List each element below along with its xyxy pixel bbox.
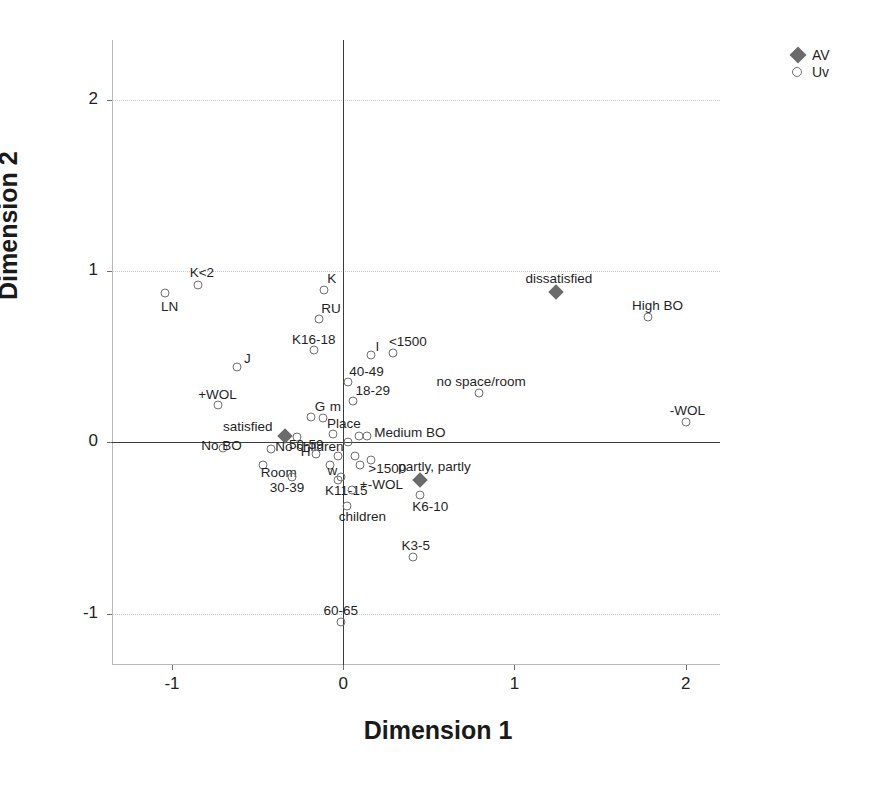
data-point-diamond [413, 472, 429, 488]
legend-circle-icon [792, 67, 810, 77]
data-point-circle [344, 438, 353, 447]
data-point-circle [363, 431, 372, 440]
data-point-circle [161, 289, 170, 298]
data-point-circle [311, 450, 320, 459]
data-point-circle [681, 417, 690, 426]
data-point-label: 60-65 [323, 604, 358, 618]
data-point-circle [320, 286, 329, 295]
legend-marker-shape [790, 46, 807, 63]
legend-diamond-icon [792, 49, 810, 61]
data-point-label: >1500 [368, 462, 406, 476]
data-point-circle [366, 455, 375, 464]
data-point-label: J [244, 352, 251, 366]
data-point-circle [233, 363, 242, 372]
data-point-label: K16-18 [292, 333, 336, 347]
y-tick-mark-0 [107, 442, 112, 443]
data-point-diamond [548, 284, 564, 300]
y-tick-mark-1 [107, 271, 112, 272]
y-tick-mark-2 [107, 100, 112, 101]
data-point-label: K6-10 [412, 500, 448, 514]
data-point-circle [306, 412, 315, 421]
data-point-label: H [301, 445, 311, 459]
x-tick-label-0: 0 [338, 674, 347, 694]
data-point-label: <1500 [389, 335, 427, 349]
data-point-circle [347, 486, 356, 495]
data-point-circle [337, 472, 346, 481]
data-point-circle [409, 553, 418, 562]
data-point-circle [193, 280, 202, 289]
data-point-label: K [327, 272, 336, 286]
plot-area: 210-1-1012 satisfieddissatisfiedpartly, … [112, 40, 720, 665]
data-point-label: G [315, 400, 326, 414]
x-tick-label-2: 2 [681, 674, 690, 694]
legend-marker-shape [792, 67, 802, 77]
data-point-label: dissatisfied [526, 272, 593, 286]
data-point-label: K<2 [190, 266, 214, 280]
gridline-y--1 [112, 614, 720, 615]
data-point-label: No BO [201, 439, 242, 453]
x-tick-mark-2 [686, 665, 687, 670]
y-tick-mark--1 [107, 614, 112, 615]
data-point-circle [318, 414, 327, 423]
data-point-label: LN [161, 300, 178, 314]
data-point-circle [334, 452, 343, 461]
data-point-circle [354, 431, 363, 440]
data-point-label: High BO [632, 299, 683, 313]
data-point-label: Place [327, 417, 361, 431]
gridline-y-2 [112, 100, 720, 101]
data-point-label: satisfied [223, 420, 273, 434]
data-point-label: K3-5 [401, 539, 430, 553]
data-point-label: children [339, 510, 386, 524]
x-tick-label-1: 1 [510, 674, 519, 694]
data-point-label: I [376, 340, 380, 354]
data-point-circle [388, 349, 397, 358]
data-point-label: no space/room [437, 375, 526, 389]
data-point-circle [366, 351, 375, 360]
data-point-label: 30-39 [270, 481, 305, 495]
data-point-label: +WOL [198, 388, 237, 402]
data-point-label: RU [321, 302, 341, 316]
data-point-circle [337, 618, 346, 627]
data-point-circle [344, 378, 353, 387]
plot-frame-left [112, 40, 113, 665]
data-point-circle [349, 397, 358, 406]
y-tick-label--1: -1 [83, 603, 98, 623]
data-point-label: +-WOL [360, 478, 403, 492]
legend: AVUv [792, 46, 830, 80]
x-tick-label--1: -1 [164, 674, 179, 694]
legend-label: AV [812, 47, 830, 63]
plot-frame-bottom [112, 664, 720, 665]
x-axis-title: Dimension 1 [0, 716, 876, 745]
data-point-label: -WOL [670, 404, 705, 418]
data-point-circle [351, 452, 360, 461]
x-tick-mark-1 [514, 665, 515, 670]
data-point-circle [644, 313, 653, 322]
x-tick-mark-0 [343, 665, 344, 670]
legend-item-Uv: Uv [792, 63, 830, 80]
vertical-zero-axis [343, 40, 344, 665]
x-tick-mark--1 [172, 665, 173, 670]
data-point-label: Medium BO [374, 426, 445, 440]
y-axis-title: Dimension 2 [0, 151, 23, 300]
data-point-label: 18-29 [355, 384, 390, 398]
data-point-label: m [330, 400, 341, 414]
data-point-circle [356, 460, 365, 469]
data-point-label: partly, partly [398, 460, 471, 474]
data-point-circle [474, 388, 483, 397]
legend-item-AV: AV [792, 46, 830, 63]
data-point-label: 40-49 [349, 365, 384, 379]
y-tick-label-2: 2 [89, 89, 98, 109]
y-tick-label-0: 0 [89, 431, 98, 451]
legend-label: Uv [812, 64, 829, 80]
y-tick-label-1: 1 [89, 260, 98, 280]
